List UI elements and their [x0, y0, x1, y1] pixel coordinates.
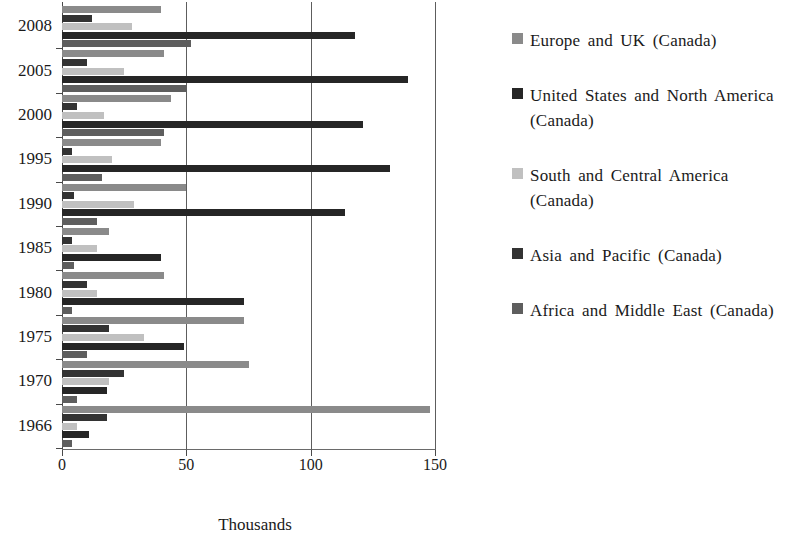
gridline-150	[435, 2, 436, 450]
gridline-50	[186, 2, 187, 450]
legend-label: Europe and UK (Canada)	[530, 28, 717, 53]
legend-label: Asia and Pacific (Canada)	[530, 243, 722, 268]
x-tick-label-0: 0	[32, 455, 92, 475]
y-tick-boundary-5	[56, 270, 63, 271]
legend-item[interactable]: South and Central America (Canada)	[512, 163, 804, 213]
bar	[62, 343, 184, 350]
bar	[62, 317, 244, 324]
bar	[62, 440, 72, 447]
bar	[62, 325, 109, 332]
legend-item[interactable]: United States and North America (Canada)	[512, 83, 804, 133]
legend-item[interactable]: Europe and UK (Canada)	[512, 28, 804, 53]
bar	[62, 139, 161, 146]
bar	[62, 281, 87, 288]
bar	[62, 59, 87, 66]
bar	[62, 165, 390, 172]
bar	[62, 40, 191, 47]
y-category-label: 1980	[0, 283, 52, 303]
legend-swatch-asia-pacific	[512, 248, 523, 259]
legend-swatch-united-states	[512, 88, 523, 99]
chart-legend: Europe and UK (Canada)United States and …	[512, 28, 804, 353]
y-category-label: 2008	[0, 16, 52, 36]
bar	[62, 85, 186, 92]
bar	[62, 121, 363, 128]
bar	[62, 112, 104, 119]
gridline-100	[311, 2, 312, 450]
bar	[62, 290, 97, 297]
bar	[62, 431, 89, 438]
bar	[62, 351, 87, 358]
bar	[62, 192, 74, 199]
y-category-label: 1985	[0, 238, 52, 258]
bar	[62, 218, 97, 225]
y-category-label: 2005	[0, 61, 52, 81]
bar	[62, 148, 72, 155]
bar	[62, 68, 124, 75]
x-tick-label-50: 50	[156, 455, 216, 475]
legend-label: South and Central America (Canada)	[530, 163, 792, 213]
legend-swatch-europe-uk	[512, 33, 523, 44]
bar	[62, 209, 345, 216]
y-tick-boundary-4	[56, 226, 63, 227]
y-tick-boundary-7	[56, 359, 63, 360]
y-tick-boundary-0	[56, 48, 63, 49]
bar	[62, 387, 107, 394]
bar	[62, 228, 109, 235]
bar	[62, 334, 144, 341]
legend-item[interactable]: Asia and Pacific (Canada)	[512, 243, 804, 268]
bar	[62, 414, 107, 421]
bar	[62, 23, 132, 30]
y-category-label: 1966	[0, 416, 52, 436]
y-tick-boundary-9	[56, 448, 63, 449]
bar	[62, 32, 355, 39]
bar	[62, 201, 134, 208]
x-axis-line	[62, 449, 436, 450]
x-axis-title: Thousands	[155, 515, 355, 535]
x-tick-label-150: 150	[405, 455, 465, 475]
bar	[62, 254, 161, 261]
bar	[62, 50, 164, 57]
legend-swatch-africa-middle-east	[512, 303, 523, 314]
bar	[62, 307, 72, 314]
bar	[62, 298, 244, 305]
bar	[62, 156, 112, 163]
bar-chart-figure: 050100150 200820052000199519901985198019…	[0, 0, 804, 548]
y-category-label: 1970	[0, 371, 52, 391]
legend-item[interactable]: Africa and Middle East (Canada)	[512, 298, 804, 323]
bar	[62, 378, 109, 385]
legend-swatch-south-central-america	[512, 168, 523, 179]
y-category-label: 1990	[0, 194, 52, 214]
bar	[62, 423, 77, 430]
bar	[62, 361, 249, 368]
bar	[62, 406, 430, 413]
bar	[62, 76, 408, 83]
bar	[62, 396, 77, 403]
plot-wrapper: 050100150 200820052000199519901985198019…	[0, 0, 470, 470]
x-tick-label-100: 100	[281, 455, 341, 475]
y-tick-boundary-2	[56, 137, 63, 138]
bar	[62, 237, 72, 244]
bar	[62, 103, 77, 110]
bar	[62, 6, 161, 13]
bar	[62, 245, 97, 252]
bar	[62, 95, 171, 102]
bar	[62, 262, 74, 269]
bar	[62, 370, 124, 377]
legend-label: United States and North America (Canada)	[530, 83, 792, 133]
bar	[62, 129, 164, 136]
legend-label: Africa and Middle East (Canada)	[530, 298, 774, 323]
y-category-label: 1975	[0, 327, 52, 347]
bar	[62, 184, 186, 191]
y-category-label: 1995	[0, 149, 52, 169]
y-category-label: 2000	[0, 105, 52, 125]
bar	[62, 174, 102, 181]
bar	[62, 15, 92, 22]
bar	[62, 272, 164, 279]
